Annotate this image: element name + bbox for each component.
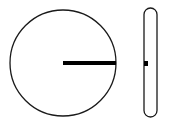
disk-diagram	[0, 0, 169, 125]
face-view	[10, 10, 116, 116]
radius-marker	[144, 61, 148, 66]
diagram-svg	[0, 0, 169, 125]
edge-view	[144, 8, 157, 117]
